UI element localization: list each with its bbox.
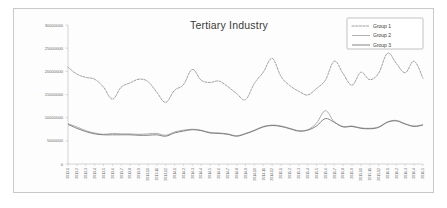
y-axis-tick-label: 10000000 — [45, 115, 64, 120]
legend-item-label[interactable]: Group 1 — [373, 23, 391, 29]
x-axis-tick-label: 2014.4 — [199, 168, 203, 179]
series-line-2 — [68, 111, 423, 136]
chart-legend[interactable]: Group 1Group 2Group 3 — [347, 18, 423, 49]
y-axis-tick-label: 0 — [61, 162, 64, 167]
chart-plot-area: Tertiary Industry 3000000025000000200000… — [14, 9, 435, 194]
x-axis-tick-label: 2014.11 — [262, 168, 266, 180]
x-axis-tick-label: 2015.3 — [297, 168, 301, 179]
x-axis-tick-label: 2013.9 — [137, 168, 141, 179]
x-axis-tick-label: 2015.8 — [341, 168, 345, 179]
x-axis-tick-label: 2014.9 — [244, 168, 248, 179]
legend-item-label[interactable]: Group 2 — [373, 32, 391, 38]
x-axis-tick-label: 2015.11 — [368, 168, 372, 180]
x-axis-tick-label: 2014.3 — [191, 168, 195, 179]
x-axis-tick-label: 2013.4 — [93, 168, 97, 179]
chart-svg: Tertiary Industry 3000000025000000200000… — [14, 9, 435, 194]
x-axis-tick-label: 2014.8 — [235, 168, 239, 179]
x-axis-tick-label: 2013.6 — [111, 168, 115, 179]
x-axis-tick-label: 2016.2 — [395, 168, 399, 179]
y-axis: 3000000025000000200000001500000010000000… — [45, 23, 68, 167]
x-axis-tick-label: 2016.5 — [421, 168, 425, 179]
x-axis-tick-label: 2013.11 — [155, 168, 159, 180]
x-axis-tick-label: 2014.2 — [182, 168, 186, 179]
x-axis-tick-label: 2014.7 — [226, 168, 230, 179]
x-axis-tick-label: 2014.1 — [173, 168, 177, 179]
x-axis-tick-label: 2013.8 — [128, 168, 132, 179]
x-axis-tick-label: 2013.5 — [102, 168, 106, 179]
x-axis-tick-label: 2016.3 — [404, 168, 408, 179]
x-axis-tick-label: 2013.1 — [66, 168, 70, 179]
x-axis-tick-label: 2014.10 — [253, 168, 257, 181]
x-axis-tick-label: 2013.3 — [84, 168, 88, 179]
y-axis-tick-label: 25000000 — [45, 46, 64, 51]
legend-item-label[interactable]: Group 3 — [373, 42, 391, 48]
x-axis-tick-label: 2014.12 — [270, 168, 274, 181]
y-axis-tick-label: 5000000 — [47, 138, 64, 143]
x-axis-tick-label: 2015.5 — [315, 168, 319, 179]
x-axis-tick-label: 2016.4 — [412, 168, 416, 179]
chart-title: Tertiary Industry — [190, 19, 269, 31]
x-axis-tick-label: 2014.5 — [208, 168, 212, 179]
x-axis-tick-label: 2013.12 — [164, 168, 168, 181]
x-axis-tick-label: 2015.7 — [333, 168, 337, 179]
chart-card: Tertiary Industry 3000000025000000200000… — [13, 8, 434, 193]
x-axis-tick-label: 2015.12 — [377, 168, 381, 181]
x-axis-tick-label: 2013.10 — [146, 168, 150, 181]
y-axis-tick-label: 15000000 — [45, 92, 64, 97]
x-axis-tick-label: 2014.6 — [217, 168, 221, 179]
x-axis-tick-label: 2013.2 — [75, 168, 79, 179]
data-series-group — [68, 53, 423, 136]
x-axis-tick-label: 2015.2 — [288, 168, 292, 179]
x-axis-tick-label: 2015.4 — [306, 168, 310, 179]
x-axis-tick-label: 2013.7 — [120, 168, 124, 179]
x-axis-tick-label: 2015.6 — [324, 168, 328, 179]
x-axis-tick-label: 2015.1 — [279, 168, 283, 179]
x-axis: 2013.12013.22013.32013.42013.52013.62013… — [66, 164, 425, 181]
series-line-1 — [68, 53, 423, 102]
x-axis-tick-label: 2015.9 — [350, 168, 354, 179]
y-axis-tick-label: 20000000 — [45, 69, 64, 74]
x-axis-tick-label: 2015.10 — [359, 168, 363, 181]
x-axis-tick-label: 2016.1 — [386, 168, 390, 179]
y-axis-tick-label: 30000000 — [45, 23, 64, 28]
